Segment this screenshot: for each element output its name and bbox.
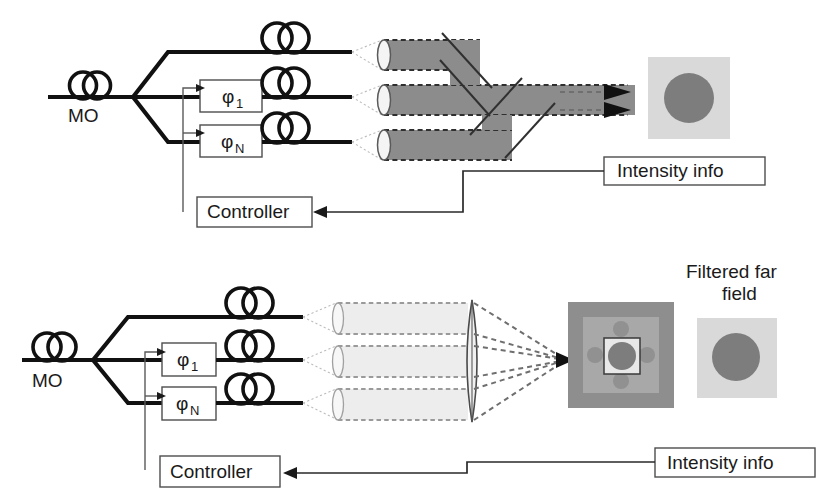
bottom-feedback-arrowhead (283, 467, 297, 479)
bottom-side-lobe-top (613, 321, 629, 337)
top-intensity-info-label: Intensity info (617, 160, 724, 181)
bottom-far-field-main-lobe (608, 342, 636, 370)
top-amplifier-2 (262, 68, 352, 98)
filtered-far-field-spot (712, 333, 760, 381)
bottom-mo-coil-icon (33, 333, 76, 361)
bottom-side-lobe-left (587, 347, 603, 363)
filtered-far-field-caption-line2: field (722, 283, 757, 304)
top-phi1-symbol: φ (222, 86, 234, 107)
bottom-side-lobe-bottom (613, 373, 629, 389)
top-beam-3 (378, 130, 513, 160)
filtered-far-field-caption-line1: Filtered far (686, 261, 777, 282)
top-far-field-spot (664, 73, 714, 123)
bottom-collimator-rays (303, 303, 336, 419)
beam-combining-diagram: MO φ 1 φ N (0, 0, 819, 503)
bottom-phiN-box (162, 387, 216, 420)
bottom-phiN-symbol: φ (176, 393, 188, 414)
bottom-phi1-symbol: φ (177, 349, 189, 370)
bottom-mo-label: MO (32, 370, 63, 391)
bottom-feedback-path (297, 462, 655, 473)
top-phiN-subscript: N (235, 141, 244, 156)
bottom-intensity-info[interactable]: Intensity info (655, 448, 815, 477)
bottom-beam-2 (333, 346, 469, 377)
top-far-field-image (648, 57, 730, 139)
bottom-diagram: MO φ 1 φ N (22, 261, 815, 487)
top-amplifier-1 (233, 23, 352, 53)
bottom-phiN-subscript: N (190, 403, 199, 418)
top-master-oscillator: MO (48, 72, 133, 126)
bottom-converging-rays (474, 303, 574, 420)
bottom-phase-modulator-n: φ N (162, 387, 216, 420)
bottom-controller[interactable]: Controller (160, 456, 280, 487)
bottom-phi1-subscript: 1 (191, 359, 198, 374)
bottom-amplifier-2 (216, 331, 303, 361)
bottom-side-lobe-right (639, 347, 655, 363)
figure-root: MO φ 1 φ N (0, 0, 819, 503)
bottom-phase-modulator-1: φ 1 (162, 343, 216, 376)
top-phase-modulator-n: φ N (200, 125, 262, 157)
top-mo-coil-icon (70, 72, 111, 99)
top-feedback-arrowhead (313, 206, 327, 218)
bottom-filtered-far-field: Filtered far field (686, 261, 777, 398)
top-phi1-subscript: 1 (236, 96, 243, 111)
top-mo-label: MO (68, 105, 99, 126)
top-controller-label: Controller (207, 201, 290, 222)
bottom-master-oscillator: MO (22, 333, 93, 391)
bottom-intensity-info-label: Intensity info (667, 452, 774, 473)
top-diagram: MO φ 1 φ N (48, 23, 765, 227)
bottom-far-field-image (568, 302, 674, 408)
top-phase-modulator-1: φ 1 (200, 80, 262, 112)
top-controller[interactable]: Controller (197, 197, 312, 227)
bottom-beam-1 (333, 303, 469, 334)
top-phiN-symbol: φ (221, 131, 233, 152)
bottom-amplifier-1 (200, 288, 303, 318)
bottom-beam-3 (333, 389, 469, 420)
bottom-lens (467, 300, 477, 422)
bottom-controller-label: Controller (170, 461, 253, 482)
bottom-amplifier-3 (216, 374, 303, 404)
top-feedback-path (327, 171, 604, 212)
top-intensity-info[interactable]: Intensity info (604, 157, 765, 185)
top-amplifier-3 (262, 113, 352, 143)
